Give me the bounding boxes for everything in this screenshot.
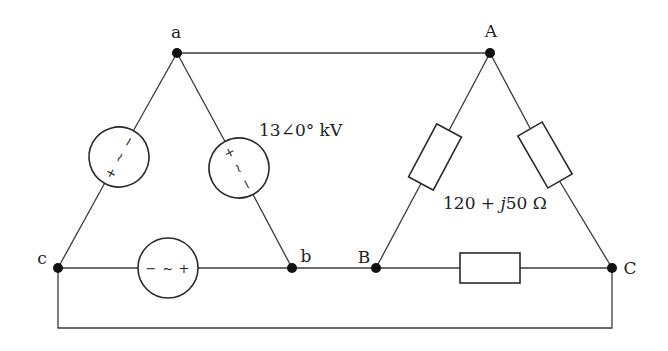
wire-a-to-source-ac xyxy=(134,53,178,131)
impedance-AB xyxy=(409,124,462,190)
wire-A-to-ZAC xyxy=(490,53,531,129)
impedance-box-icon xyxy=(518,122,572,188)
node-B xyxy=(371,263,381,273)
source-minus-sign: − xyxy=(146,261,157,276)
node-c xyxy=(53,263,63,273)
node-b xyxy=(287,263,297,273)
load-impedance-label: 120 + j50 Ω xyxy=(443,193,547,213)
impedance-AC xyxy=(518,122,572,188)
delta-delta-circuit-diagram: + ~ − + ~ − − ~ + a b c A B C xyxy=(0,0,668,351)
impedance-imag-part: 50 Ω xyxy=(506,193,547,213)
impedance-box-icon xyxy=(460,253,520,283)
wire-ZAB-to-B xyxy=(376,184,421,269)
node-a xyxy=(172,48,182,58)
wire-a-to-source-ab xyxy=(177,53,225,142)
wire-ZAC-to-C xyxy=(560,181,613,268)
wire-source-ab-to-b xyxy=(253,195,292,269)
source-ac-tilde-icon: ~ xyxy=(163,261,174,276)
wire-A-to-ZAB xyxy=(449,53,490,131)
source-plus-sign: + xyxy=(179,261,190,276)
voltage-source-cb: − ~ + xyxy=(138,238,198,298)
label-B: B xyxy=(358,247,371,267)
label-a: a xyxy=(171,22,181,42)
label-C: C xyxy=(623,258,636,278)
label-c: c xyxy=(37,248,47,268)
voltage-source-ac: + ~ − xyxy=(78,116,160,198)
source-voltage-label: 13∠0° kV xyxy=(259,120,343,140)
impedance-box-icon xyxy=(409,124,462,190)
impedance-real-part: 120 + xyxy=(443,193,501,213)
node-C xyxy=(607,263,617,273)
label-b: b xyxy=(301,246,312,266)
node-A xyxy=(485,48,495,58)
label-A: A xyxy=(484,21,498,41)
wire-source-ac-to-c xyxy=(58,184,105,269)
load-delta-wires xyxy=(376,53,612,268)
impedance-BC xyxy=(460,253,520,283)
line-connections xyxy=(58,53,612,328)
